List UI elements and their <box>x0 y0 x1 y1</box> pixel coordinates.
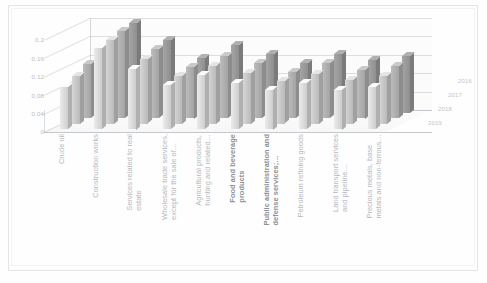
depth-axis-label-2019: 2019 <box>428 120 442 126</box>
x-axis-category-labels: Crude oilConstruction worksServices rela… <box>44 134 444 274</box>
bar-side <box>114 37 118 124</box>
bar-side <box>399 63 403 119</box>
bar-face <box>288 72 296 118</box>
bar-side <box>353 76 357 123</box>
bar <box>174 76 182 124</box>
chart-figure: 0,20,160,120,080,040 2016201720182019 Cr… <box>0 0 487 283</box>
bar-face <box>265 90 273 130</box>
bar <box>368 87 376 129</box>
bar-face <box>117 31 125 118</box>
bar-side <box>285 78 289 123</box>
bar-face <box>197 75 205 129</box>
bar-side <box>307 80 311 129</box>
bar-side <box>68 84 72 129</box>
x-axis-label: Food and beverage products <box>228 134 247 203</box>
bar <box>72 76 80 124</box>
bar-side <box>171 82 175 129</box>
bar <box>254 63 262 118</box>
bar-face <box>106 40 114 124</box>
bar-side <box>376 84 380 129</box>
depth-axis-label-2018: 2018 <box>438 106 452 112</box>
x-axis-label: Crude oil <box>57 134 66 164</box>
bar-face <box>163 85 171 129</box>
bar-face <box>231 83 239 129</box>
bar <box>231 83 239 129</box>
bar-side <box>387 73 391 124</box>
bar-side <box>182 73 186 124</box>
y-axis-tick-label: 0,16 <box>32 55 44 62</box>
bar-face <box>311 74 319 124</box>
bar-side <box>205 72 209 129</box>
bar-face <box>140 59 148 123</box>
bar <box>128 69 136 130</box>
bar-face <box>186 67 194 119</box>
bar-side <box>216 63 220 124</box>
depth-axis-label-2016: 2016 <box>458 78 472 84</box>
bar <box>243 73 251 124</box>
bar-side <box>273 87 277 130</box>
bar-face <box>72 76 80 124</box>
x-axis-label: Public administration and defense servic… <box>262 134 281 226</box>
bar-face <box>368 87 376 129</box>
y-axis-tick-label: 0,04 <box>32 110 44 117</box>
bar-face <box>60 87 68 129</box>
bar <box>117 31 125 118</box>
bar-side <box>342 87 346 130</box>
bar-side <box>319 71 323 124</box>
bar-series-group <box>44 18 432 132</box>
bar-side <box>148 56 152 124</box>
x-axis-label: Wholesale trade services, except for the… <box>160 134 179 220</box>
bar <box>299 83 307 129</box>
bar <box>94 48 102 129</box>
floor-front-edge <box>44 132 432 133</box>
bar <box>197 75 205 129</box>
bar <box>208 66 216 124</box>
x-axis-label: Petroleum refining goods <box>296 134 305 217</box>
x-axis-label: Land transport services and pipeline… <box>331 134 350 212</box>
bar-side <box>410 53 414 113</box>
bar <box>391 66 399 118</box>
bar-face <box>277 81 285 123</box>
bar-face <box>391 66 399 118</box>
bar-face <box>174 76 182 124</box>
bar <box>151 49 159 118</box>
bar-face <box>94 48 102 129</box>
bar <box>220 56 228 118</box>
bar <box>163 85 171 129</box>
bar <box>60 87 68 129</box>
bar <box>311 74 319 124</box>
bar <box>402 56 410 113</box>
bar <box>277 81 285 123</box>
bar-face <box>243 73 251 124</box>
legend-depth-axis: 2016201720182019 <box>428 78 486 138</box>
x-axis-label: Construction works <box>91 134 100 198</box>
bar <box>140 59 148 123</box>
bar-side <box>251 70 255 124</box>
bar-face <box>254 63 262 118</box>
bar <box>334 90 342 130</box>
bar <box>106 40 114 124</box>
y-axis-tick-label: 0,12 <box>32 73 44 80</box>
bar <box>265 90 273 130</box>
y-axis: 0,20,160,120,080,040 <box>14 18 46 134</box>
y-axis-tick-label: 0,2 <box>35 36 44 43</box>
x-axis-label: Services related to real estate <box>125 134 144 211</box>
bar-side <box>239 80 243 129</box>
bar <box>357 70 365 119</box>
x-axis-label: Agricultural products, hunting and relat… <box>194 134 213 206</box>
bar-face <box>334 90 342 130</box>
bar-side <box>102 45 106 129</box>
bar-side <box>80 73 84 124</box>
y-axis-tick-label: 0,08 <box>32 92 44 99</box>
bar-face <box>357 70 365 119</box>
bar <box>186 67 194 119</box>
bar <box>288 72 296 118</box>
bar-side <box>136 65 140 129</box>
x-axis-label: Precious metals, base metals and non-fer… <box>365 134 384 219</box>
depth-axis-label-2017: 2017 <box>448 92 462 98</box>
bar <box>322 63 330 118</box>
bar-face <box>220 56 228 118</box>
